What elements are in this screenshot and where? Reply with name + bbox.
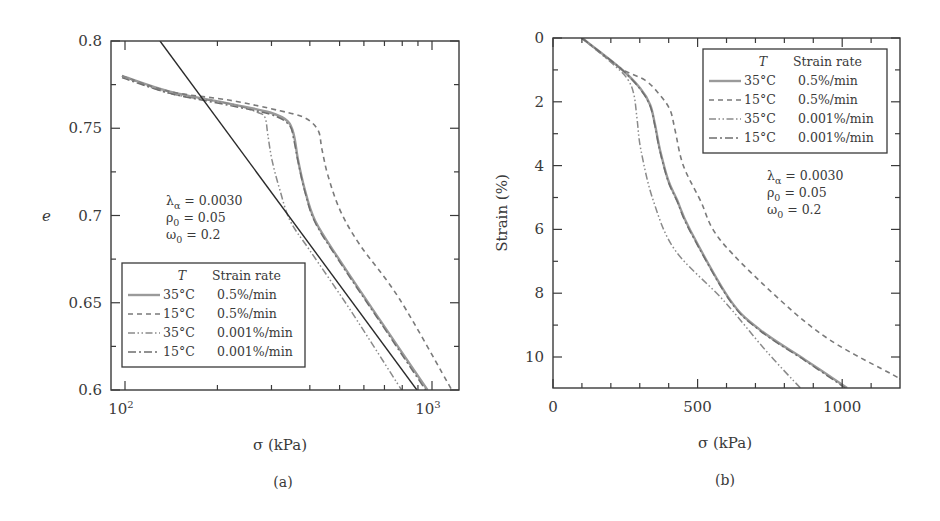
- chart-b-panel-label: (b): [715, 472, 735, 488]
- chart-b: 050010000246810 Strain (%) σ (kPa) (b) λ…: [493, 29, 901, 488]
- legend-rate: 0.5%/min: [798, 73, 858, 88]
- x-tick-label: 102: [108, 399, 133, 418]
- y-tick-label: 0.7: [78, 207, 102, 225]
- figure: 1021030.80.750.70.650.6 e σ (kPa) (a) λα…: [0, 0, 940, 521]
- x-tick-label: 103: [415, 399, 440, 418]
- y-tick-label: 0.8: [78, 32, 102, 50]
- x-tick-label: 1000: [823, 398, 861, 416]
- legend-rate: 0.5%/min: [798, 92, 858, 107]
- legend-header-rate: Strain rate: [212, 268, 281, 283]
- legend-rate: 0.5%/min: [217, 306, 277, 321]
- legend-temp: 15°C: [163, 306, 195, 321]
- parameter-annotation: ω0 = 0.2: [767, 202, 822, 220]
- y-tick-label: 0: [534, 29, 544, 47]
- legend-rate: 0.001%/min: [217, 325, 293, 340]
- parameter-annotation: λα = 0.0030: [166, 193, 243, 211]
- parameter-annotation: λα = 0.0030: [767, 168, 844, 186]
- x-tick-label: 500: [683, 398, 712, 416]
- legend-temp: 35°C: [744, 73, 776, 88]
- chart-a-annotation: λα = 0.0030ρ0 = 0.05ω0 = 0.2: [166, 193, 243, 245]
- y-tick-label: 10: [525, 348, 544, 366]
- legend-temp: 15°C: [744, 92, 776, 107]
- chart-b-xlabel: σ (kPa): [698, 434, 752, 452]
- legend-temp: 35°C: [163, 325, 195, 340]
- parameter-annotation: ω0 = 0.2: [166, 227, 221, 245]
- legend-rate: 0.001%/min: [798, 111, 874, 126]
- chart-a: 1021030.80.750.70.650.6 e σ (kPa) (a) λα…: [42, 32, 459, 490]
- legend-rate: 0.5%/min: [217, 287, 277, 302]
- legend-temp: 35°C: [744, 111, 776, 126]
- y-tick-label: 2: [534, 93, 544, 111]
- legend-temp: 35°C: [163, 287, 195, 302]
- parameter-annotation: ρ0 = 0.05: [166, 210, 226, 228]
- y-tick-label: 4: [534, 157, 544, 175]
- legend-header-rate: Strain rate: [793, 54, 862, 69]
- chart-b-annotation: λα = 0.0030ρ0 = 0.05ω0 = 0.2: [767, 168, 844, 220]
- y-tick-label: 6: [534, 220, 544, 238]
- legend-rate: 0.001%/min: [217, 344, 293, 359]
- chart-b-ylabel: Strain (%): [493, 174, 511, 252]
- y-tick-label: 0.65: [69, 294, 102, 312]
- chart-a-legend: TStrain rate35°C0.5%/min15°C0.5%/min35°C…: [122, 263, 305, 367]
- legend-temp: 15°C: [744, 130, 776, 145]
- y-tick-label: 0.75: [69, 119, 102, 137]
- legend-rate: 0.001%/min: [798, 130, 874, 145]
- chart-a-xlabel: σ (kPa): [253, 436, 307, 454]
- parameter-annotation: ρ0 = 0.05: [767, 185, 827, 203]
- legend-temp: 15°C: [163, 344, 195, 359]
- chart-b-legend: TStrain rate35°C0.5%/min15°C0.5%/min35°C…: [703, 49, 887, 153]
- x-tick-label: 0: [548, 398, 558, 416]
- chart-a-ylabel: e: [42, 207, 51, 225]
- y-tick-label: 8: [534, 284, 544, 302]
- chart-a-panel-label: (a): [273, 474, 292, 490]
- y-tick-label: 0.6: [78, 381, 102, 399]
